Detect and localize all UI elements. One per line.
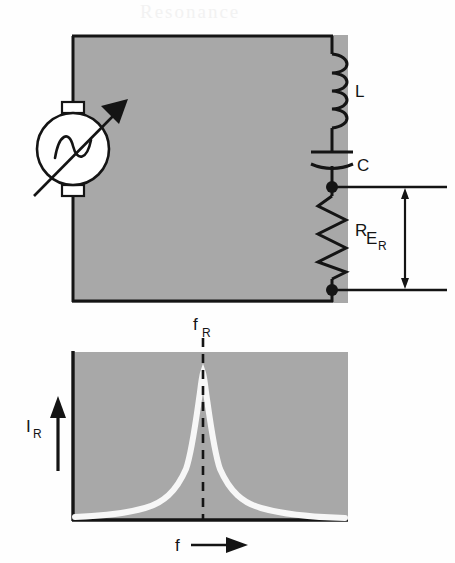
resonance-chart-panel: f R I R f	[26, 315, 348, 555]
chart-y-axis-label-base: I	[26, 417, 31, 436]
resonant-frequency-label-base: f	[193, 315, 198, 334]
chart-y-axis-arrow-head-icon	[50, 396, 66, 418]
ac-source-terminal-bottom	[62, 185, 84, 196]
chart-y-axis-label-subscript: R	[33, 427, 42, 441]
circuit-panel: L C R E R	[34, 35, 447, 303]
capacitor-label: C	[357, 156, 369, 175]
chart-x-axis-label: f	[175, 536, 180, 555]
voltage-arrow-head-up-icon	[401, 188, 409, 199]
inductor-label: L	[355, 82, 364, 101]
voltage-arrow-head-down-icon	[401, 278, 409, 289]
circuit-panel-background	[72, 35, 348, 303]
figure-canvas: Resonance	[0, 0, 455, 563]
chart-x-axis-arrow-head-icon	[226, 537, 248, 553]
ac-source-terminal-top	[62, 102, 84, 113]
ghost-header-text: Resonance	[140, 1, 240, 22]
voltage-label-subscript: R	[378, 239, 387, 253]
figure-root: Resonance	[0, 0, 455, 563]
resonant-frequency-label-subscript: R	[202, 326, 211, 340]
voltage-label-base: E	[366, 229, 377, 248]
